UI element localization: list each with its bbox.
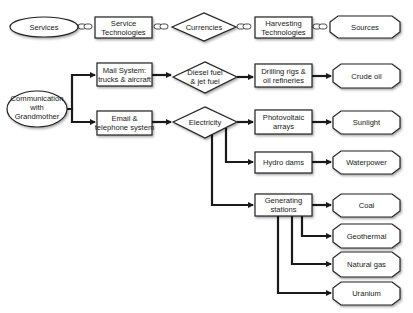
svg-text:Uranium: Uranium [352,289,381,298]
harvest-photovoltaic: Photovoltaic arrays [255,110,312,134]
svg-text:Service: Service [111,19,136,28]
harvest-generating-stations: Generating stations [255,194,312,216]
svg-text:oil refineries: oil refineries [263,76,304,85]
svg-text:Drilling rigs &: Drilling rigs & [261,67,306,76]
legend-service-technologies: Service Technologies [95,17,152,38]
source-sunlight: Sunlight [333,111,400,134]
svg-text:Geothermal: Geothermal [347,232,387,241]
chain-link-icon [78,24,92,29]
service-communication-with-grandmother: Communication with Grandmother [7,91,67,127]
svg-text:Generating: Generating [265,196,303,205]
tech-email-telephone: Email & telephone system [95,111,155,135]
svg-text:Crude oil: Crude oil [351,72,382,81]
svg-text:& jet fuel: & jet fuel [190,77,220,86]
tech-mail-system: Mail System: trucks & aircraft [97,63,152,86]
svg-text:Grandmother: Grandmother [15,112,60,121]
currency-diesel-jet-fuel: Diesel fuel & jet fuel [173,62,237,93]
source-natural-gas: Natural gas [333,252,400,277]
svg-text:Currencies: Currencies [186,23,223,32]
svg-text:Sources: Sources [351,23,379,32]
svg-text:trucks & aircraft: trucks & aircraft [98,75,152,84]
svg-text:Electricity: Electricity [189,118,222,127]
currency-electricity: Electricity [173,107,237,138]
svg-text:Email &: Email & [111,114,137,123]
legend-row: Services Service Technologies Currencies… [10,13,400,41]
energy-flow-diagram: Services Service Technologies Currencies… [0,0,413,313]
svg-text:Sunlight: Sunlight [353,118,381,127]
svg-text:Mail System:: Mail System: [103,66,146,75]
legend-currencies: Currencies [172,13,236,41]
legend-harvesting-technologies: Harvesting Technologies [255,17,312,38]
svg-text:Hydro dams: Hydro dams [263,158,304,167]
chain-link-icon [237,24,251,29]
svg-text:telephone system: telephone system [95,123,155,132]
svg-text:Waterpower: Waterpower [346,158,387,167]
svg-text:Technologies: Technologies [101,28,146,37]
legend-services: Services [10,17,78,37]
connectors [67,75,331,293]
svg-text:Diesel fuel: Diesel fuel [187,68,223,77]
source-uranium: Uranium [333,282,400,305]
svg-text:Communication: Communication [11,94,64,103]
source-geothermal: Geothermal [333,224,400,248]
harvest-drilling-rigs: Drilling rigs & oil refineries [255,64,312,87]
legend-sources: Sources [330,16,400,38]
svg-text:Coal: Coal [359,201,375,210]
source-crude-oil: Crude oil [333,64,400,88]
source-waterpower: Waterpower [333,151,400,174]
svg-text:Natural gas: Natural gas [347,260,386,269]
svg-text:with: with [29,103,44,112]
harvest-hydro-dams: Hydro dams [255,152,312,173]
chain-link-icon [154,24,168,29]
chain-link-icon [313,24,327,29]
svg-text:Harvesting: Harvesting [265,19,301,28]
svg-text:arrays: arrays [273,122,294,131]
legend-services-label: Services [29,23,58,32]
svg-text:stations: stations [270,205,296,214]
source-coal: Coal [333,194,400,217]
svg-text:Technologies: Technologies [261,28,306,37]
svg-text:Photovoltaic: Photovoltaic [263,113,305,122]
